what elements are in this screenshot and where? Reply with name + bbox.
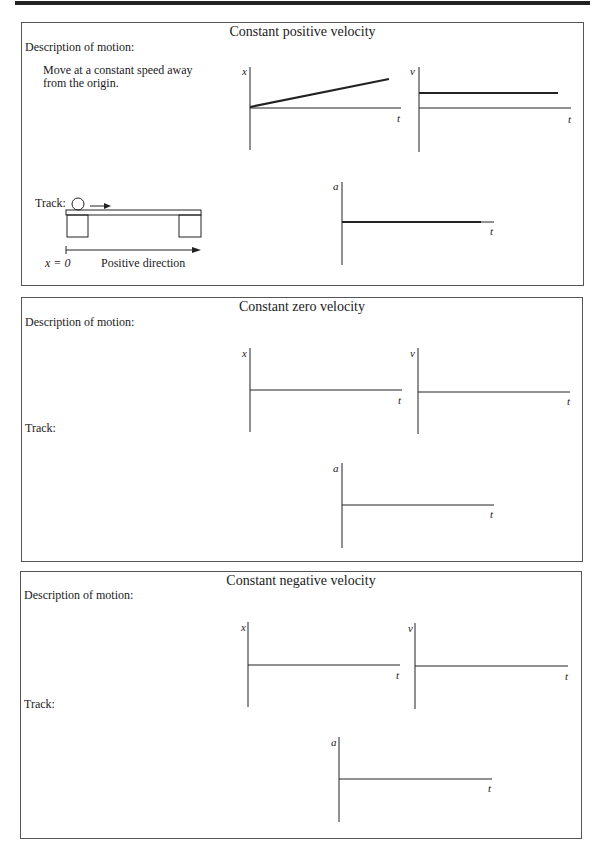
t-axis-label: t	[490, 508, 494, 520]
p2-a-graph[interactable]	[342, 463, 494, 548]
p1-v-graph[interactable]	[419, 67, 571, 152]
p3-x-graph[interactable]	[248, 622, 400, 707]
t-axis-label: t	[568, 113, 572, 125]
track-diagram	[66, 198, 201, 254]
t-axis-label: t	[398, 394, 402, 406]
x-axis-label: x	[240, 621, 246, 633]
p2-v-graph[interactable]	[418, 348, 570, 434]
t-axis-label: t	[565, 670, 569, 682]
x-axis-label: x	[241, 65, 247, 77]
p3-a-graph[interactable]	[339, 737, 492, 822]
v-axis-label: v	[410, 65, 415, 77]
t-axis-label: t	[567, 395, 571, 407]
a-axis-label: a	[331, 736, 337, 748]
cart-ball-icon	[72, 198, 84, 210]
a-axis-label: a	[333, 462, 339, 474]
p2-x-graph[interactable]	[250, 348, 402, 432]
p1-a-graph[interactable]	[342, 182, 494, 265]
t-axis-label: t	[397, 112, 401, 124]
x-axis-label: x	[241, 347, 247, 359]
p1-x-graph[interactable]	[250, 67, 401, 150]
v-axis-label: v	[408, 622, 413, 634]
t-axis-label: t	[396, 669, 400, 681]
v-axis-label: v	[410, 347, 415, 359]
graphs-layer: x t v t a t x t v t a t x t v t a t	[0, 0, 600, 849]
t-axis-label: t	[488, 782, 492, 794]
t-axis-label: t	[490, 225, 494, 237]
p3-v-graph[interactable]	[415, 623, 568, 709]
a-axis-label: a	[333, 180, 339, 192]
